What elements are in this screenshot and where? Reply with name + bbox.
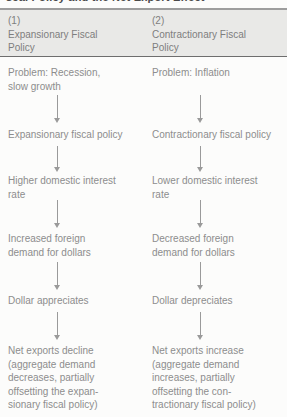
column-2-heading: (2) Contractionary Fiscal Policy [152,14,246,55]
table-header-bottom-rule [0,56,287,57]
down-arrow-icon [196,312,205,340]
down-arrow-icon [53,146,62,172]
down-arrow-icon [53,95,62,123]
step-1-1: Problem: Recession, slow growth [8,66,142,93]
down-arrow-icon [53,312,62,340]
step-2-4: Decreased foreign demand for dollars [152,232,286,259]
step-2-3: Lower domestic interest rate [152,174,286,201]
net-export-effect-flowchart: scal Policy and the Net Export Effect (1… [0,0,287,417]
step-1-5: Dollar appreciates [8,294,142,308]
figure-title-cutoff: scal Policy and the Net Export Effect [0,0,287,7]
step-1-6: Net exports decline (aggregate demand de… [8,344,142,412]
down-arrow-icon [196,146,205,172]
figure-title-text: scal Policy and the Net Export Effect [6,0,205,3]
step-2-6: Net exports increase (aggregate demand i… [152,344,286,412]
step-2-5: Dollar depreciates [152,294,286,308]
step-2-1: Problem: Inflation [152,66,286,80]
down-arrow-icon [196,262,205,290]
down-arrow-icon [53,200,62,228]
step-2-2: Contractionary fiscal policy [152,128,286,142]
step-1-2: Expansionary fiscal policy [8,128,142,142]
step-1-4: Increased foreign demand for dollars [8,232,142,259]
column-1-heading: (1) Expansionary Fiscal Policy [8,14,97,55]
down-arrow-icon [53,262,62,290]
step-1-3: Higher domestic interest rate [8,174,142,201]
down-arrow-icon [196,95,205,123]
down-arrow-icon [196,200,205,228]
